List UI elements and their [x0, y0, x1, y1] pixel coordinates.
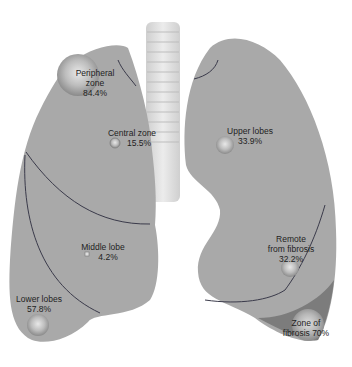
label-lower-value: 57.8% [14, 304, 64, 314]
label-central-name: Central zone [106, 128, 158, 138]
label-peripheral-line2: zone [70, 78, 120, 88]
label-lower-name: Lower lobes [14, 294, 64, 304]
label-peripheral: Peripheral zone 84.4% [70, 68, 120, 98]
label-fibrosis: Zone of fibrosis 70% [278, 318, 334, 338]
label-central-value: 15.5% [106, 138, 158, 148]
label-upper-name: Upper lobes [224, 126, 276, 136]
label-remote-line2: from fibrosis [266, 244, 316, 254]
label-upper-value: 33.9% [224, 136, 276, 146]
label-remote-value: 32.2% [266, 254, 316, 264]
label-lower: Lower lobes 57.8% [14, 294, 64, 314]
label-middle-value: 4.2% [78, 252, 128, 262]
label-peripheral-line1: Peripheral [70, 68, 120, 78]
label-middle: Middle lobe 4.2% [78, 242, 128, 262]
label-fibrosis-line1: Zone of [278, 318, 334, 328]
label-remote: Remote from fibrosis 32.2% [266, 234, 316, 264]
label-peripheral-value: 84.4% [70, 88, 120, 98]
label-central: Central zone 15.5% [106, 128, 158, 148]
label-fibrosis-line2: fibrosis 70% [278, 328, 334, 338]
left-lung [185, 39, 337, 341]
label-middle-name: Middle lobe [78, 242, 128, 252]
bubble-lower [27, 314, 49, 336]
label-upper: Upper lobes 33.9% [224, 126, 276, 146]
label-remote-line1: Remote [266, 234, 316, 244]
